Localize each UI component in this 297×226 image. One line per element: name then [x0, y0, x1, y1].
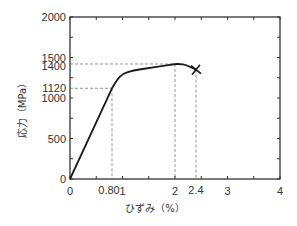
y-tick-label: 0: [60, 173, 66, 185]
y-extra-label: 1120: [42, 82, 66, 94]
stress-strain-chart: 012340.802.4050010001500200011201400 ひずみ…: [0, 0, 297, 226]
x-tick-label: 3: [224, 185, 230, 197]
y-tick-label: 2000: [42, 11, 66, 23]
x-tick-label: 2: [172, 185, 178, 197]
stress-strain-curve: [70, 64, 196, 179]
y-tick-label: 500: [48, 133, 66, 145]
x-extra-label: 2.4: [188, 184, 203, 196]
x-tick-label: 4: [277, 185, 283, 197]
tick-labels: 012340.802.4050010001500200011201400: [42, 11, 284, 197]
x-tick-label: 1: [119, 185, 125, 197]
fracture-x-marker-icon: [191, 65, 201, 75]
y-axis-label: 応力（MPa）: [16, 78, 28, 138]
x-tick-label: 0: [67, 185, 73, 197]
dashed-guides: [70, 64, 196, 179]
x-axis-label: ひずみ（%）: [125, 203, 185, 214]
y-extra-label: 1400: [42, 60, 66, 72]
x-extra-label: 0.80: [98, 184, 119, 196]
